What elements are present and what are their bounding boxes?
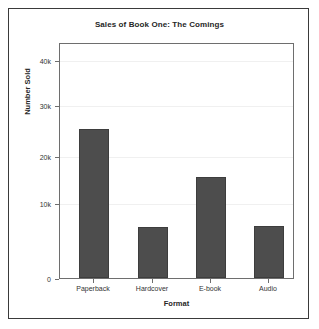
bar-paperback[interactable]: [79, 129, 109, 278]
x-axis-label-paperback: Paperback: [76, 285, 109, 292]
bar-e-book[interactable]: [196, 177, 226, 278]
y-axis-label-0: 0: [9, 276, 51, 283]
x-axis-tick-hardcover: [152, 279, 153, 283]
gridline-40k: [60, 61, 293, 62]
bar-hardcover[interactable]: [138, 227, 168, 278]
y-axis-label-10k: 10k: [9, 201, 51, 208]
chart-title: Sales of Book One: The Comings: [9, 20, 309, 29]
bar-audio[interactable]: [254, 226, 284, 278]
y-axis-title: Number Sold: [23, 27, 32, 157]
x-axis-tick-e-book: [210, 279, 211, 283]
x-axis-tick-paperback: [93, 279, 94, 283]
x-axis-label-e-book: E-book: [199, 285, 221, 292]
x-axis-label-audio: Audio: [259, 285, 277, 292]
x-axis-tick-audio: [268, 279, 269, 283]
gridline-30k: [60, 106, 293, 107]
plot-canvas: [60, 44, 293, 278]
x-axis-title: Format: [59, 299, 294, 308]
x-axis-label-hardcover: Hardcover: [136, 285, 168, 292]
chart-figure: Sales of Book One: The Comings 40k 30k 2…: [8, 8, 309, 319]
y-axis-tick-0: [55, 279, 59, 280]
plot-area: [59, 43, 294, 279]
